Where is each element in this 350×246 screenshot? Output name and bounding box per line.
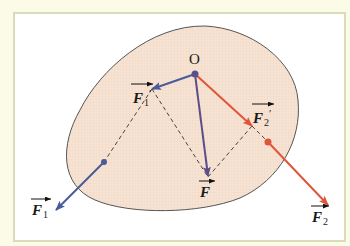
f2-arrow [268,142,328,205]
f2-label: F2 [312,210,328,227]
point-o-label: O [189,51,200,68]
f2-application-point [265,139,272,146]
f1-prime-label: F1′ [133,88,151,108]
f1-label: F1 [32,203,48,220]
resultant-label: F [200,185,210,200]
force-diagram [0,0,350,246]
point-o [192,71,199,78]
f1-application-point [101,159,107,165]
f2-prime-label: F2′ [253,108,271,128]
